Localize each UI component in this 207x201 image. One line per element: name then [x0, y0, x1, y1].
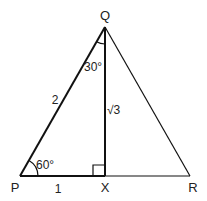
vertex-label-P: P	[11, 180, 20, 195]
side-label-QX: √3	[107, 103, 121, 117]
angle-label-P: 60°	[36, 158, 54, 172]
angle-label-Q: 30°	[84, 60, 102, 74]
side-label-PQ: 2	[52, 93, 59, 107]
triangle-diagram: Q P X R 2 1 √3 60° 30°	[0, 0, 207, 201]
angle-arc-Q	[97, 42, 106, 44]
right-angle-marker	[93, 165, 105, 176]
vertex-label-X: X	[101, 180, 110, 195]
vertex-label-R: R	[188, 180, 197, 195]
side-PQ	[20, 27, 105, 176]
side-label-PX: 1	[55, 182, 62, 196]
vertex-label-Q: Q	[100, 8, 110, 23]
side-QR	[105, 27, 190, 176]
